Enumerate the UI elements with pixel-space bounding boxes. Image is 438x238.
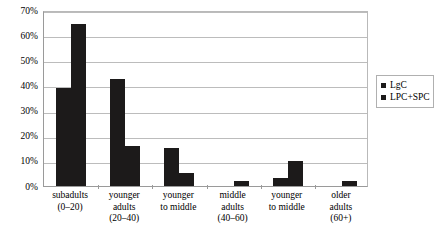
y-tick-label: 50% xyxy=(21,56,38,66)
bar xyxy=(342,181,357,186)
x-category-label-line: adults xyxy=(206,202,260,214)
bar xyxy=(288,161,303,186)
x-category-label: subadults(0–20) xyxy=(43,190,97,213)
bars-layer xyxy=(44,12,367,186)
x-category-label-line: younger xyxy=(151,190,205,202)
y-tick-label: 0% xyxy=(25,182,38,192)
bar-group xyxy=(315,12,369,186)
y-axis: 0%10%20%30%40%50%60%70% xyxy=(0,0,41,238)
bar xyxy=(273,178,288,186)
bar-group xyxy=(207,12,261,186)
x-category-label-line: (40–60) xyxy=(206,213,260,225)
bar xyxy=(71,24,86,186)
legend-item[interactable]: LgC xyxy=(381,79,430,91)
y-tick-label: 10% xyxy=(21,156,38,166)
y-tick-label: 60% xyxy=(21,31,38,41)
x-tick-mark xyxy=(152,185,153,189)
bar-group xyxy=(98,12,152,186)
x-category-label-line: younger xyxy=(260,190,314,202)
bar-group xyxy=(152,12,206,186)
legend-label: LgC xyxy=(390,80,407,90)
bar xyxy=(164,148,179,186)
legend-item[interactable]: LPC+SPC xyxy=(381,91,430,103)
x-category-label-line: (0–20) xyxy=(43,202,97,214)
x-tick-mark xyxy=(315,185,316,189)
x-category-label-line: adults xyxy=(97,202,151,214)
x-category-label-line: younger xyxy=(97,190,151,202)
x-category-label-line: middle xyxy=(206,190,260,202)
x-tick-mark xyxy=(207,185,208,189)
bar xyxy=(125,146,140,186)
x-axis: subadults(0–20)youngeradults(20–40)young… xyxy=(43,190,368,238)
x-category-label: youngerto middle xyxy=(151,190,205,213)
x-tick-mark xyxy=(261,185,262,189)
x-category-label: middleadults(40–60) xyxy=(206,190,260,225)
bar xyxy=(56,88,71,186)
x-category-label-line: to middle xyxy=(151,202,205,214)
bar-chart: 0%10%20%30%40%50%60%70% subadults(0–20)y… xyxy=(0,0,438,238)
bar-group xyxy=(261,12,315,186)
y-tick-label: 70% xyxy=(21,6,38,16)
legend-swatch-icon xyxy=(381,83,386,88)
x-category-label-line: subadults xyxy=(43,190,97,202)
x-category-label: youngerto middle xyxy=(260,190,314,213)
legend-swatch-icon xyxy=(381,95,386,100)
legend-label: LPC+SPC xyxy=(390,92,430,102)
bar xyxy=(179,173,194,186)
x-category-label: olderadults(60+) xyxy=(314,190,368,225)
x-category-label-line: (60+) xyxy=(314,213,368,225)
chart-legend: LgCLPC+SPC xyxy=(376,75,434,108)
x-category-label: youngeradults(20–40) xyxy=(97,190,151,225)
bar xyxy=(234,181,249,186)
y-tick-label: 20% xyxy=(21,131,38,141)
y-tick-label: 40% xyxy=(21,81,38,91)
x-category-label-line: adults xyxy=(314,202,368,214)
x-category-label-line: (20–40) xyxy=(97,213,151,225)
bar xyxy=(110,79,125,186)
y-tick-label: 30% xyxy=(21,106,38,116)
x-category-label-line: to middle xyxy=(260,202,314,214)
plot-area xyxy=(43,11,368,187)
x-tick-mark xyxy=(98,185,99,189)
bar-group xyxy=(44,12,98,186)
x-category-label-line: older xyxy=(314,190,368,202)
